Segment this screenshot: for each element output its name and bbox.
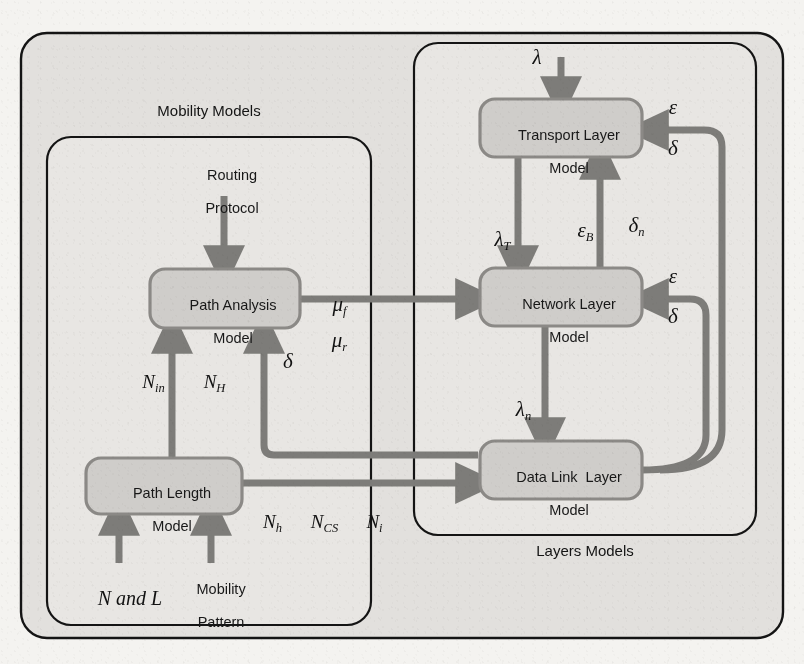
edge-label-lambda-n: λn [493,374,533,446]
edge-label-delta-network: δ [658,305,688,329]
edge-label-epsilon-network: ε [658,265,688,289]
n-subscript: H [216,381,225,395]
box-label-line2: Model [213,330,253,346]
input-label-line1: Mobility [196,581,245,597]
lambda-symbol: λ [516,397,525,421]
lambda-subscript: T [504,238,511,252]
box-label-line2: Model [549,329,589,345]
epsilon-symbol: ε [578,218,586,242]
panel-title-mobility-models: Mobility Models [47,103,371,120]
delta-symbol: δ [628,213,638,237]
input-label-line2: Protocol [205,200,258,216]
box-label-path-length: Path Length Model [86,469,242,550]
input-label-line2: Pattern [198,614,245,630]
box-label-line1: Network Layer [522,296,615,312]
box-label-data-link-layer: Data Link Layer Model [480,453,642,534]
edge-label-epsilon-transport: ε [658,96,688,120]
edge-label-mu-r: μr [309,305,349,377]
n-symbol: N [366,511,379,532]
edge-label-N-i: Ni [344,490,386,556]
edge-label-N-in: Nin [118,350,170,416]
edge-label-N-h: Nh [242,490,284,556]
n-symbol: N [311,511,324,532]
panel-title-layers-models: Layers Models [414,543,756,560]
n-subscript: i [379,521,382,535]
n-subscript: CS [324,521,339,535]
lambda-symbol: λ [494,227,503,251]
box-label-line1: Path Analysis [190,297,277,313]
box-label-line1: Data Link Layer [516,469,622,485]
box-label-line1: Path Length [133,485,211,501]
n-subscript: in [155,381,165,395]
n-symbol: N [98,587,111,609]
box-label-line2: Model [152,518,192,534]
mu-subscript: r [342,339,347,353]
box-label-network-layer: Network Layer Model [480,280,642,361]
input-label-mobility-pattern: Mobility Pattern [155,565,271,646]
n-symbol: N [263,511,276,532]
edge-label-lambda-T: λT [472,204,512,276]
lambda-subscript: n [525,408,531,422]
box-label-line2: Model [549,502,589,518]
edge-label-lambda: λ [522,46,552,70]
box-label-line1: Transport Layer [518,127,620,143]
box-label-line2: Model [549,160,589,176]
input-label-routing-protocol: Routing Protocol [164,151,284,232]
diagram-canvas: Mobility Models Layers Models Transport … [0,0,804,664]
n-symbol: N [142,371,155,392]
n-subscript: h [276,521,282,535]
and-word: and [111,587,151,609]
edge-label-N-H: NH [179,350,231,416]
delta-subscript: n [638,224,644,238]
n-symbol: N [204,371,217,392]
edge-label-delta-transport: δ [658,137,688,161]
box-label-transport-layer: Transport Layer Model [480,111,642,192]
edge-label-epsilon-B: εB [555,195,595,267]
input-label-line1: Routing [207,167,257,183]
edge-label-N-CS: NCS [288,490,342,556]
mu-symbol: μ [332,328,343,352]
edge-label-delta-path-analysis: δ [273,350,303,374]
epsilon-subscript: B [586,229,594,243]
edge-label-delta-n: δn [606,190,646,262]
